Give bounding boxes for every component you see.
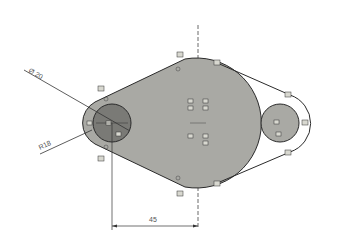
diameter-dimension-label[interactable]: Ø 20: [28, 67, 45, 81]
arrow-right-icon: [193, 225, 198, 228]
right-boss-circle[interactable]: [261, 104, 299, 142]
constraint-tag-icon[interactable]: [203, 99, 208, 103]
cad-sketch-canvas: Ø 20 R18 45: [0, 0, 347, 251]
constraint-tag-icon[interactable]: [188, 99, 193, 103]
constraint-tag-icon[interactable]: [116, 132, 121, 136]
constraint-tag-icon[interactable]: [98, 86, 104, 91]
constraint-tag-icon[interactable]: [203, 134, 208, 138]
constraint-tag-icon[interactable]: [87, 121, 92, 125]
constraint-tag-icon[interactable]: [203, 141, 208, 145]
constraint-tag-icon[interactable]: [285, 150, 291, 155]
horizontal-dimension-label[interactable]: 45: [149, 216, 157, 223]
constraint-tag-icon[interactable]: [214, 60, 220, 65]
constraint-tag-icon[interactable]: [302, 120, 308, 125]
constraint-tag-icon[interactable]: [276, 132, 281, 136]
constraint-tag-icon[interactable]: [188, 134, 193, 138]
constraint-tag-icon[interactable]: [177, 52, 183, 57]
constraint-tag-icon[interactable]: [203, 106, 208, 110]
constraint-tag-icon[interactable]: [98, 156, 104, 161]
constraint-tag-icon[interactable]: [177, 191, 183, 196]
constraint-tag-icon[interactable]: [214, 181, 220, 186]
constraint-tag-icon[interactable]: [188, 106, 193, 110]
constraint-tag-icon[interactable]: [285, 92, 291, 97]
arrow-left-icon: [112, 225, 117, 228]
constraint-tag-icon[interactable]: [274, 120, 279, 124]
